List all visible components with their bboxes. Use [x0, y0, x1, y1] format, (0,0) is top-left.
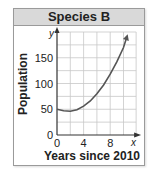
- x-tick-label: 8: [107, 137, 113, 149]
- x-tick-label: 4: [81, 137, 87, 149]
- y-axis-label: Population: [16, 53, 30, 115]
- x-axis-label: Years since 2010: [44, 149, 140, 163]
- axes: [55, 27, 142, 138]
- y-tick-label: 50: [41, 103, 53, 115]
- y-tick-label: 100: [35, 78, 53, 90]
- x-axis-variable: x: [130, 137, 137, 148]
- population-curve: [57, 37, 127, 111]
- chart-plot: 050100150048 Population Years since 2010…: [0, 0, 152, 174]
- y-tick-label: 150: [35, 52, 53, 64]
- y-axis-variable: y: [48, 28, 55, 39]
- y-tick-label: 0: [47, 129, 53, 141]
- x-tick-label: 0: [54, 137, 60, 149]
